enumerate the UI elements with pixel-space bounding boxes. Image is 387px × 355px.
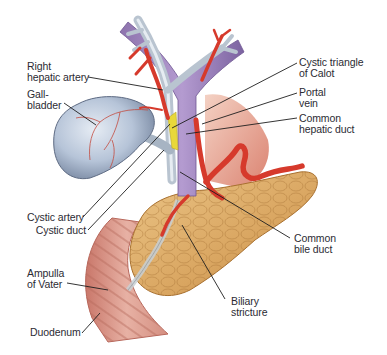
illustration — [0, 0, 387, 355]
label-portal-vein: Portal vein — [299, 87, 326, 109]
label-common-hepatic-duct: Common hepatic duct — [299, 113, 354, 135]
label-cystic-triangle-of-calot: Cystic triangle of Calot — [299, 57, 363, 79]
anatomy-figure: Right hepatic artery Gall- bladder Cysti… — [0, 0, 387, 355]
label-right-hepatic-artery: Right hepatic artery — [27, 61, 89, 83]
label-cystic-artery: Cystic artery — [24, 212, 84, 223]
gallbladder — [54, 97, 155, 179]
label-common-bile-duct: Common bile duct — [294, 233, 336, 255]
label-gallbladder: Gall- bladder — [27, 89, 61, 111]
label-duodenum: Duodenum — [30, 327, 81, 338]
pancreas — [128, 172, 317, 296]
label-cystic-duct: Cystic duct — [24, 225, 86, 236]
label-biliary-stricture: Biliary stricture — [231, 296, 267, 318]
label-ampulla-of-vater: Ampulla of Vater — [27, 268, 64, 290]
